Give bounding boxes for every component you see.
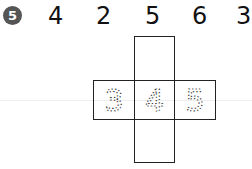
traced-digit-5: 5 bbox=[185, 83, 204, 118]
traced-digits-layer: 3 4 5 bbox=[0, 0, 252, 169]
traced-digit-3: 3 bbox=[104, 83, 123, 118]
traced-digit-4: 4 bbox=[145, 83, 164, 118]
